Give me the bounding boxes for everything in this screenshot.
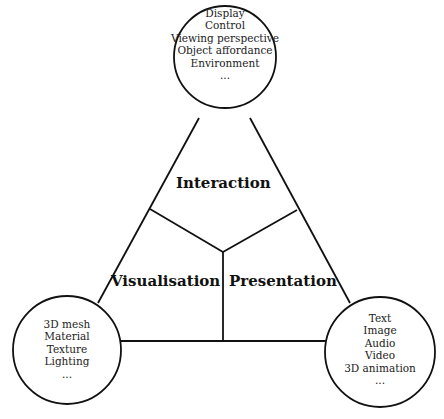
node-item: ... bbox=[330, 374, 430, 386]
region-label-interaction: Interaction bbox=[176, 174, 271, 192]
node-top-text: Display Control Viewing perspective Obje… bbox=[165, 7, 285, 81]
node-item: Texture bbox=[17, 343, 117, 355]
node-item: Audio bbox=[330, 337, 430, 349]
node-item: Image bbox=[330, 324, 430, 336]
region-label-visualisation: Visualisation bbox=[111, 272, 220, 290]
node-item: Viewing perspective bbox=[165, 32, 285, 44]
node-item: ... bbox=[165, 69, 285, 81]
node-item: Control bbox=[165, 19, 285, 31]
node-item: 3D animation bbox=[330, 362, 430, 374]
node-item: 3D mesh bbox=[17, 318, 117, 330]
node-item: Object affordance bbox=[165, 44, 285, 56]
node-item: Text bbox=[330, 312, 430, 324]
node-item: Display bbox=[165, 7, 285, 19]
node-item: Environment bbox=[165, 57, 285, 69]
node-item: Video bbox=[330, 349, 430, 361]
divider-right bbox=[223, 210, 297, 252]
node-bottom-right-text: Text Image Audio Video 3D animation ... bbox=[330, 312, 430, 386]
divider-left bbox=[150, 209, 223, 252]
node-bottom-left-text: 3D mesh Material Texture Lighting ... bbox=[17, 318, 117, 380]
node-item: Material bbox=[17, 330, 117, 342]
node-item: ... bbox=[17, 368, 117, 380]
region-label-presentation: Presentation bbox=[229, 272, 337, 290]
node-item: Lighting bbox=[17, 355, 117, 367]
